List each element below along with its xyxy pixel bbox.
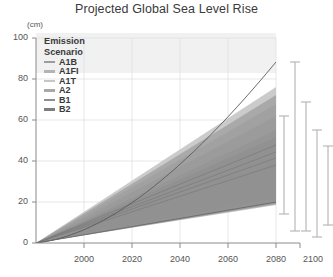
legend-swatch-b1 xyxy=(44,99,55,102)
legend-label-a1b: A1B xyxy=(59,57,77,67)
x-tick-label-2100: 2100 xyxy=(293,254,333,264)
y-tick-label-100: 100 xyxy=(2,32,28,42)
legend-title-line1: Emission xyxy=(44,36,85,47)
legend-label-a1t: A1T xyxy=(59,76,76,86)
x-tick-label-2060: 2060 xyxy=(208,254,248,264)
legend-label-b2: B2 xyxy=(59,104,71,114)
legend-label-a1fi: A1FI xyxy=(59,66,79,76)
legend-item-a1t[interactable]: A1T xyxy=(44,76,85,86)
x-tick-label-2000: 2000 xyxy=(64,254,104,264)
y-tick-label-0: 0 xyxy=(2,237,28,247)
x-tick-label-2020: 2020 xyxy=(112,254,152,264)
error-bar-2 xyxy=(290,62,300,231)
y-tick-marks xyxy=(32,38,36,243)
error-bar-4 xyxy=(312,130,322,237)
x-tick-label-2040: 2040 xyxy=(160,254,200,264)
legend: Emission Scenario A1B A1FI A1T A2 B1 B2 xyxy=(44,36,85,114)
legend-swatch-a1b xyxy=(44,61,55,64)
legend-title-line2: Scenario xyxy=(44,47,85,58)
y-tick-label-40: 40 xyxy=(2,155,28,165)
y-tick-label-60: 60 xyxy=(2,114,28,124)
error-bars-group xyxy=(279,62,333,237)
x-tick-marks xyxy=(84,243,300,248)
y-tick-label-20: 20 xyxy=(2,196,28,206)
legend-item-a1b[interactable]: A1B xyxy=(44,57,85,67)
error-bar-1 xyxy=(279,116,289,214)
legend-label-a2: A2 xyxy=(59,85,71,95)
legend-item-b1[interactable]: B1 xyxy=(44,95,85,105)
legend-item-b2[interactable]: B2 xyxy=(44,105,85,115)
legend-swatch-a2 xyxy=(44,89,55,92)
legend-swatch-a1fi xyxy=(44,70,55,73)
error-bar-5 xyxy=(323,146,333,225)
legend-label-b1: B1 xyxy=(59,95,71,105)
error-bar-3 xyxy=(301,102,311,231)
legend-item-a1fi[interactable]: A1FI xyxy=(44,67,85,77)
x-tick-label-2080: 2080 xyxy=(256,254,296,264)
sea-level-rise-chart: Projected Global Sea Level Rise (cm) xyxy=(0,0,333,277)
y-tick-label-80: 80 xyxy=(2,73,28,83)
legend-item-a2[interactable]: A2 xyxy=(44,86,85,96)
band-core xyxy=(36,95,276,243)
legend-swatch-a1t xyxy=(44,80,55,83)
legend-swatch-b2 xyxy=(44,108,55,111)
